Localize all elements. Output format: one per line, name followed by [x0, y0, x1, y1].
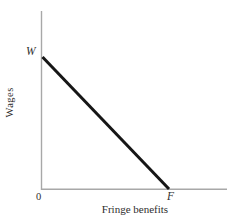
origin-label: 0: [36, 192, 41, 203]
x-axis-title: Fringe benefits: [95, 204, 175, 215]
x-intercept-label: F: [167, 191, 174, 203]
tradeoff-line: [43, 57, 170, 189]
y-axis-title: Wages: [5, 79, 16, 125]
wage-fringe-benefits-chart: W 0 F Wages Fringe benefits: [0, 0, 245, 224]
y-intercept-label: W: [26, 46, 36, 58]
